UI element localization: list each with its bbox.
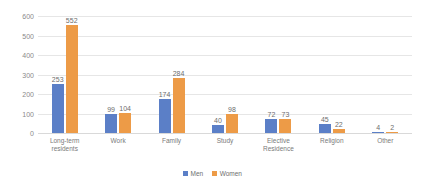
bar-rect bbox=[52, 84, 64, 133]
legend-label-men: Men bbox=[191, 170, 204, 177]
bar-men[interactable]: 4 bbox=[372, 16, 384, 133]
bar-women[interactable]: 104 bbox=[119, 16, 131, 133]
y-axis-tick-label: 200 bbox=[8, 91, 34, 98]
bar-men[interactable]: 72 bbox=[265, 16, 277, 133]
bar-value-label: 284 bbox=[173, 70, 185, 77]
bar-value-label: 4 bbox=[376, 124, 380, 131]
bar-rect bbox=[372, 132, 384, 133]
bar-group: 174284 bbox=[145, 16, 198, 133]
bar-group: 7273 bbox=[252, 16, 305, 133]
y-axis-tick-label: 400 bbox=[8, 52, 34, 59]
y-axis-tick-label: 500 bbox=[8, 32, 34, 39]
y-axis-tick-label: 100 bbox=[8, 110, 34, 117]
x-axis-category-label: Work bbox=[91, 137, 144, 145]
bar-men[interactable]: 99 bbox=[105, 16, 117, 133]
bar-value-label: 2 bbox=[390, 124, 394, 131]
x-axis-category-label: Family bbox=[145, 137, 198, 145]
plot-area: 2535529910417428440987273452242 bbox=[38, 16, 412, 133]
x-axis-category-label: Religion bbox=[305, 137, 358, 145]
bar-rect bbox=[173, 78, 185, 133]
bar-rect bbox=[265, 119, 277, 133]
bar-group: 253552 bbox=[38, 16, 91, 133]
bar-group: 99104 bbox=[91, 16, 144, 133]
bar-women[interactable]: 22 bbox=[333, 16, 345, 133]
bar-value-label: 552 bbox=[66, 17, 78, 24]
bar-women[interactable]: 552 bbox=[66, 16, 78, 133]
bar-men[interactable]: 45 bbox=[319, 16, 331, 133]
bar-women[interactable]: 284 bbox=[173, 16, 185, 133]
bar-value-label: 253 bbox=[52, 76, 64, 83]
bar-rect bbox=[386, 132, 398, 133]
chart-legend: Men Women bbox=[0, 170, 425, 177]
bar-rect bbox=[66, 25, 78, 133]
bar-group: 4098 bbox=[198, 16, 251, 133]
bar-rect bbox=[319, 124, 331, 133]
legend-label-women: Women bbox=[220, 170, 242, 177]
bar-men[interactable]: 40 bbox=[212, 16, 224, 133]
bar-value-label: 174 bbox=[159, 91, 171, 98]
bar-chart: 0100200300400500600 25355299104174284409… bbox=[0, 0, 425, 190]
bar-rect bbox=[159, 99, 171, 133]
gridline bbox=[38, 133, 412, 134]
bar-group: 42 bbox=[359, 16, 412, 133]
bar-group: 4522 bbox=[305, 16, 358, 133]
bar-rect bbox=[333, 129, 345, 133]
legend-swatch-women-icon bbox=[212, 171, 217, 176]
legend-item-women[interactable]: Women bbox=[212, 170, 242, 177]
bar-value-label: 40 bbox=[214, 117, 222, 124]
x-axis-category-label: Study bbox=[198, 137, 251, 145]
bar-value-label: 104 bbox=[119, 105, 131, 112]
bar-rect bbox=[119, 113, 131, 133]
bar-value-label: 45 bbox=[321, 116, 329, 123]
bar-value-label: 72 bbox=[268, 111, 276, 118]
y-axis-tick-label: 0 bbox=[8, 130, 34, 137]
bar-value-label: 73 bbox=[282, 111, 290, 118]
bar-rect bbox=[226, 114, 238, 133]
bar-value-label: 99 bbox=[107, 106, 115, 113]
bar-rect bbox=[279, 119, 291, 133]
legend-swatch-men-icon bbox=[183, 171, 188, 176]
y-axis-tick-label: 300 bbox=[8, 71, 34, 78]
y-axis-tick-label: 600 bbox=[8, 13, 34, 20]
bar-value-label: 98 bbox=[228, 106, 236, 113]
legend-item-men[interactable]: Men bbox=[183, 170, 203, 177]
x-axis-category-label: Long-term residents bbox=[38, 137, 91, 153]
x-axis-category-label: Other bbox=[359, 137, 412, 145]
bar-women[interactable]: 73 bbox=[279, 16, 291, 133]
bar-men[interactable]: 253 bbox=[52, 16, 64, 133]
bar-value-label: 22 bbox=[335, 121, 343, 128]
bar-rect bbox=[105, 114, 117, 133]
bar-women[interactable]: 2 bbox=[386, 16, 398, 133]
bar-women[interactable]: 98 bbox=[226, 16, 238, 133]
bar-rect bbox=[212, 125, 224, 133]
bar-men[interactable]: 174 bbox=[159, 16, 171, 133]
x-axis-category-label: Elective Residence bbox=[252, 137, 305, 153]
